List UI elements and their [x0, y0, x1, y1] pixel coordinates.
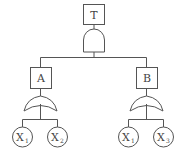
- event-A: A: [31, 68, 52, 89]
- svg-text:2: 2: [60, 137, 64, 144]
- svg-text:1: 1: [131, 137, 135, 144]
- event-B-label: B: [143, 72, 151, 85]
- fault-tree-diagram: T A X 1 X 2 B X 1 X 3: [0, 0, 180, 153]
- svg-text:X: X: [16, 131, 24, 144]
- basic-event-x1-a: X 1: [13, 127, 33, 147]
- and-gate-icon: [84, 29, 105, 52]
- top-event-label: T: [90, 9, 98, 22]
- basic-event-x1-b: X 1: [119, 127, 139, 147]
- svg-text:1: 1: [25, 137, 29, 144]
- event-B: B: [137, 68, 158, 89]
- svg-text:X: X: [122, 131, 130, 144]
- top-event-T: T: [84, 5, 105, 25]
- event-A-label: A: [36, 72, 46, 85]
- svg-text:X: X: [51, 131, 59, 144]
- basic-event-x2-a: X 2: [48, 127, 68, 147]
- basic-event-x3-b: X 3: [154, 127, 174, 147]
- svg-text:X: X: [157, 131, 165, 144]
- svg-text:3: 3: [166, 137, 170, 144]
